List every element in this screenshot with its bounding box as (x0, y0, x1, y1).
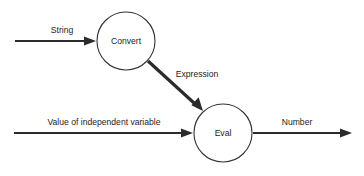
edge-independent-variable-in-arrowhead-icon (181, 128, 193, 137)
edge-string-in-arrowhead-icon (84, 36, 96, 45)
edge-label-number: Number (282, 117, 313, 127)
edge-label-expression: Expression (176, 69, 219, 79)
edge-expression: Expression (148, 61, 218, 111)
node-convert-label: Convert (111, 36, 142, 46)
edge-number-out: Number (253, 117, 352, 137)
diagram-svg: String Expression Value of independent v… (0, 0, 364, 176)
edge-expression-arrowhead-icon (191, 97, 203, 111)
edge-number-out-arrowhead-icon (340, 128, 352, 137)
edge-string-in: String (15, 25, 96, 45)
edge-independent-variable-in: Value of independent variable (14, 117, 193, 137)
edge-expression-line (148, 61, 197, 105)
node-eval-label: Eval (215, 128, 232, 138)
diagram-canvas: String Expression Value of independent v… (0, 0, 364, 176)
node-convert[interactable]: Convert (97, 12, 155, 70)
edge-label-independent-variable: Value of independent variable (47, 117, 160, 127)
edge-label-string: String (51, 25, 74, 35)
node-eval[interactable]: Eval (194, 104, 252, 162)
